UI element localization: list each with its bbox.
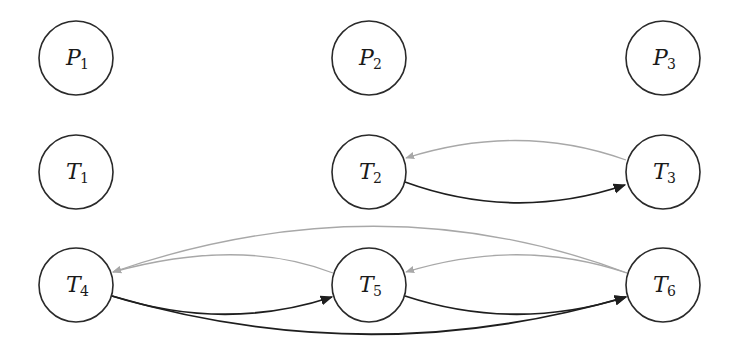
edge-t5-to-t4 [113,255,333,273]
node-t4: T4 [39,248,113,322]
node-subscript: 6 [667,283,676,299]
node-p3: P3 [626,21,700,95]
node-subscript: 2 [373,56,382,72]
node-p2: P2 [332,21,406,95]
edge-t5-to-t6 [405,296,626,314]
node-subscript: 1 [80,170,89,186]
node-t6: T6 [626,248,700,322]
node-t3: T3 [626,135,700,209]
node-t1: T1 [39,135,113,209]
nodes-layer: P1P2P3T1T2T3T4T5T6 [39,21,700,322]
graph-canvas: P1P2P3T1T2T3T4T5T6 [0,0,739,346]
node-t2: T2 [332,135,406,209]
node-subscript: 2 [373,170,382,186]
node-subscript: 3 [667,170,676,186]
node-subscript: 5 [373,283,382,299]
node-subscript: 3 [667,56,676,72]
node-subscript: 1 [80,56,89,72]
node-subscript: 4 [80,283,89,299]
edge-t3-to-t2 [406,140,626,160]
edge-t2-to-t3 [405,182,625,203]
node-p1: P1 [39,21,113,95]
edge-t6-to-t5 [406,255,627,273]
node-t5: T5 [332,248,406,322]
